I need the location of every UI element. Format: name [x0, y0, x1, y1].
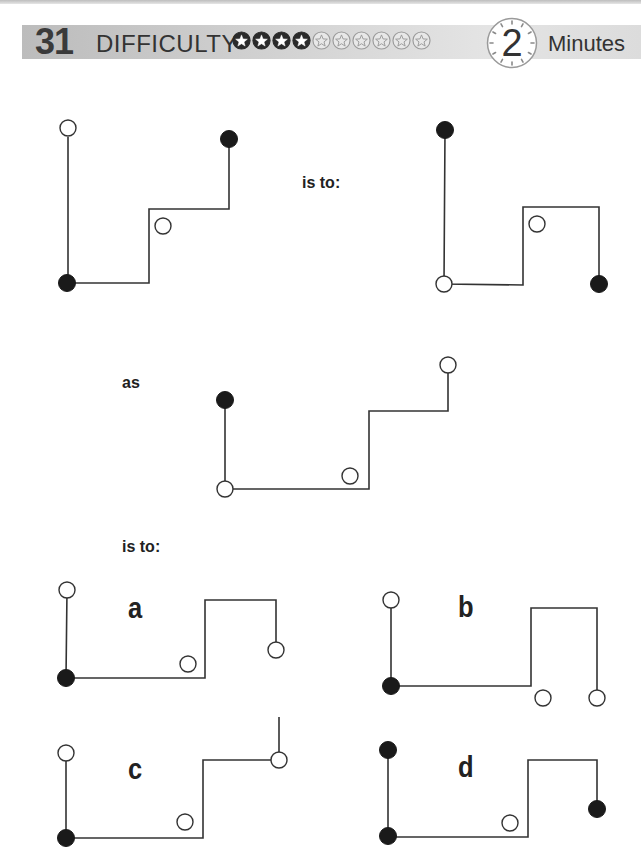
- filled-circle: [58, 670, 75, 687]
- connector-line: [66, 717, 279, 838]
- open-circle: [268, 642, 284, 658]
- filled-circle: [380, 742, 397, 759]
- filled-circle: [589, 801, 606, 818]
- filled-circle: [59, 275, 76, 292]
- option-b-figure[interactable]: [383, 592, 606, 706]
- open-circle: [440, 357, 456, 373]
- question-figure: [217, 357, 457, 497]
- filled-circle: [58, 830, 75, 847]
- example-figure-2: [436, 122, 608, 293]
- filled-circle: [221, 131, 238, 148]
- open-circle: [177, 814, 193, 830]
- open-circle: [383, 592, 399, 608]
- is-to-label-2: is to:: [122, 538, 160, 556]
- open-circle: [60, 120, 76, 136]
- option-c-label[interactable]: c: [128, 752, 142, 786]
- is-to-label-1: is to:: [302, 174, 340, 192]
- filled-circle: [380, 828, 397, 845]
- open-circle: [502, 815, 518, 831]
- connector-line: [66, 590, 276, 678]
- connector-line: [388, 750, 597, 837]
- option-c-figure[interactable]: [58, 717, 288, 847]
- open-circle: [535, 690, 551, 706]
- open-circle: [436, 276, 452, 292]
- open-circle: [217, 481, 233, 497]
- open-circle: [59, 582, 75, 598]
- puzzle-figures: [0, 0, 641, 866]
- as-label: as: [122, 374, 140, 392]
- filled-circle: [591, 276, 608, 293]
- connector-line: [444, 130, 599, 285]
- open-circle: [180, 656, 196, 672]
- open-circle: [271, 752, 287, 768]
- open-circle: [155, 218, 171, 234]
- connector-line: [68, 137, 229, 283]
- filled-circle: [217, 392, 234, 409]
- option-d-figure[interactable]: [380, 742, 606, 845]
- filled-circle: [383, 678, 400, 695]
- open-circle: [58, 745, 74, 761]
- option-d-label[interactable]: d: [458, 750, 474, 784]
- open-circle: [529, 216, 545, 232]
- filled-circle: [437, 122, 454, 139]
- connector-line: [225, 365, 448, 489]
- connector-line: [391, 600, 597, 698]
- option-b-label[interactable]: b: [458, 590, 474, 624]
- option-a-figure[interactable]: [58, 582, 285, 687]
- open-circle: [342, 468, 358, 484]
- option-a-label[interactable]: a: [128, 591, 142, 625]
- open-circle: [589, 690, 605, 706]
- example-figure-1: [59, 120, 238, 292]
